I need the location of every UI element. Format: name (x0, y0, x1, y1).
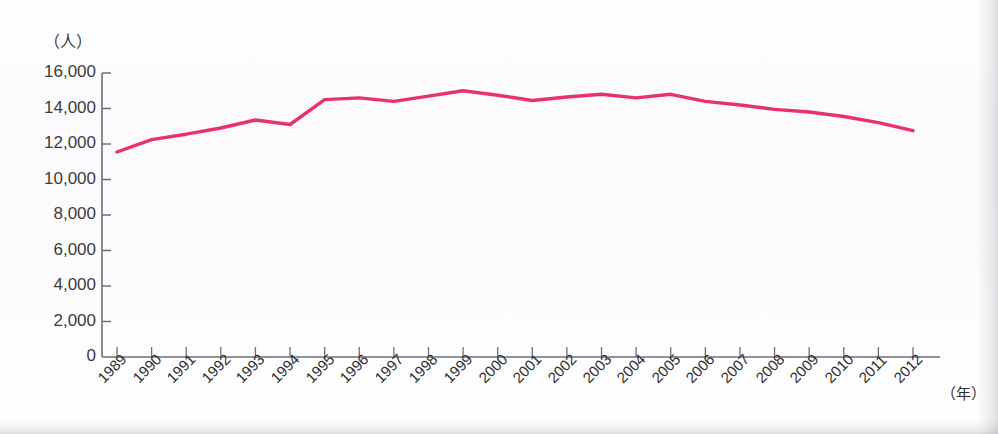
y-axis-tick-label: 8,000 (18, 204, 96, 224)
x-axis-ticks (117, 347, 913, 357)
y-axis-tick-label: 4,000 (18, 275, 96, 295)
y-axis-tick-label: 14,000 (18, 98, 96, 118)
data-series-group (117, 91, 913, 152)
y-axis-tick-label: 2,000 (18, 311, 96, 331)
y-axis-tick-label: 6,000 (18, 240, 96, 260)
y-axis-ticks (102, 73, 111, 322)
axes-group (102, 73, 940, 357)
y-axis-tick-label: 0 (18, 346, 96, 366)
y-axis-tick-label: 12,000 (18, 133, 96, 153)
chart-container: （人） 16,00014,00012,00010,0008,0006,0004,… (0, 0, 998, 434)
y-axis-tick-label: 10,000 (18, 169, 96, 189)
y-axis-tick-label: 16,000 (18, 62, 96, 82)
series-line (117, 91, 913, 152)
x-axis-unit-label: （年） (941, 382, 986, 403)
